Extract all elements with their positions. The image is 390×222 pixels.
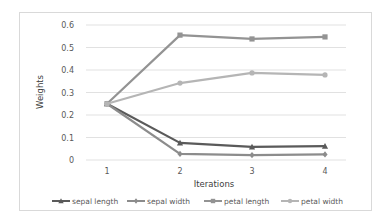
y-axis-title: Weights xyxy=(35,74,45,109)
x-axis-ticks: 1234 xyxy=(104,167,327,176)
legend-label: sepal width xyxy=(147,197,190,206)
y-tick-label: 0.1 xyxy=(61,134,74,143)
series-sepal-width xyxy=(104,101,327,158)
legend-item: petal width xyxy=(281,197,343,206)
line-chart: 00.10.20.30.40.50.6 1234 Weights Iterati… xyxy=(0,0,390,222)
legend-item: sepal length xyxy=(52,197,118,206)
legend-label: petal width xyxy=(301,197,343,206)
x-axis-title: Iterations xyxy=(194,179,235,189)
legend: sepal lengthsepal widthpetal lengthpetal… xyxy=(52,197,343,206)
x-tick-label: 4 xyxy=(322,167,327,176)
y-tick-label: 0.4 xyxy=(61,66,74,75)
data-series xyxy=(104,33,328,159)
y-tick-label: 0.3 xyxy=(61,89,74,98)
legend-label: petal length xyxy=(224,197,270,206)
legend-label: sepal length xyxy=(72,197,118,206)
y-tick-label: 0.5 xyxy=(61,44,74,53)
y-tick-label: 0 xyxy=(69,156,74,165)
y-tick-label: 0.2 xyxy=(61,111,74,120)
legend-item: sepal width xyxy=(127,197,190,206)
y-axis-ticks: 00.10.20.30.40.50.6 xyxy=(61,21,74,165)
x-tick-label: 3 xyxy=(249,167,254,176)
x-tick-label: 1 xyxy=(104,167,109,176)
x-tick-label: 2 xyxy=(177,167,182,176)
legend-item: petal length xyxy=(204,197,270,206)
gridlines xyxy=(86,25,346,160)
y-tick-label: 0.6 xyxy=(61,21,74,30)
